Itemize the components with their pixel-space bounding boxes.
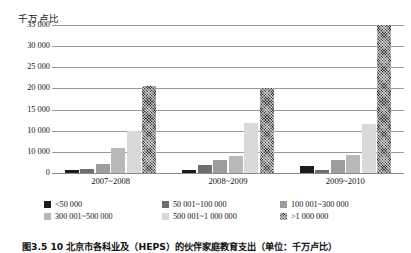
bar bbox=[80, 169, 94, 173]
bar bbox=[65, 170, 79, 173]
y-axis-tick-label: 25 000 bbox=[4, 62, 50, 71]
bar bbox=[244, 123, 258, 173]
legend-item-label: 100 001~300 000 bbox=[291, 201, 349, 209]
legend-item[interactable]: >1 000 000 bbox=[280, 213, 398, 221]
bar bbox=[127, 131, 141, 173]
x-axis-category-label: 2008~2009 bbox=[173, 176, 283, 186]
bar-group bbox=[52, 25, 169, 173]
bar-group bbox=[287, 25, 404, 173]
y-axis-tick-label: 0 bbox=[4, 168, 50, 177]
legend-item-label: 50 001~100 000 bbox=[173, 201, 227, 209]
bar bbox=[229, 156, 243, 173]
bar bbox=[182, 170, 196, 173]
legend-item-label: 300 001~500 000 bbox=[55, 213, 113, 221]
y-axis-tick-label: 15 000 bbox=[4, 105, 50, 114]
y-axis-tick-label: 30 000 bbox=[4, 41, 50, 50]
bar bbox=[142, 86, 156, 173]
bar bbox=[300, 166, 314, 173]
legend-item-label: >1 000 000 bbox=[291, 213, 328, 221]
y-axis-tick-label: 35 000 bbox=[4, 20, 50, 29]
x-axis-category-label: 2007~2008 bbox=[56, 176, 166, 186]
y-axis: 35 00030 00025 00020 00015 00010 00010 0… bbox=[0, 25, 50, 173]
bar bbox=[111, 148, 125, 173]
legend-item[interactable]: 300 001~500 000 bbox=[44, 213, 162, 221]
legend-item-label: 500 001~1 000 000 bbox=[173, 213, 237, 221]
bar bbox=[346, 155, 360, 173]
plot-area bbox=[52, 25, 404, 173]
axis-baseline bbox=[52, 173, 404, 174]
legend-swatch-icon bbox=[44, 213, 51, 220]
bar bbox=[315, 170, 329, 173]
bar bbox=[331, 160, 345, 173]
legend-swatch-icon bbox=[162, 213, 169, 220]
y-axis-tick-label: 10 000 bbox=[4, 126, 50, 135]
legend-item-label: <50 000 bbox=[55, 201, 82, 209]
bar bbox=[377, 25, 391, 173]
bar bbox=[362, 124, 376, 173]
y-axis-tick-label: 10 000 bbox=[4, 147, 50, 156]
x-axis-category-label: 2009~2010 bbox=[290, 176, 400, 186]
legend-item[interactable]: 50 001~100 000 bbox=[162, 201, 280, 209]
bar bbox=[96, 164, 110, 173]
chart-legend: <50 00050 001~100 000100 001~300 000300 … bbox=[44, 199, 404, 223]
legend-swatch-icon bbox=[44, 201, 51, 208]
legend-swatch-icon bbox=[280, 201, 287, 208]
legend-swatch-icon bbox=[162, 201, 169, 208]
legend-item[interactable]: <50 000 bbox=[44, 201, 162, 209]
bar bbox=[198, 165, 212, 173]
figure-caption: 图3.5 10 北京市各科业及（HEPS）的伙伴家庭教育支出（单位：千万卢比） bbox=[22, 239, 411, 253]
legend-item[interactable]: 100 001~300 000 bbox=[280, 201, 398, 209]
legend-item[interactable]: 500 001~1 000 000 bbox=[162, 213, 280, 221]
y-axis-tick-label: 20 000 bbox=[4, 83, 50, 92]
bar bbox=[260, 88, 274, 173]
bar bbox=[213, 160, 227, 173]
bar-group bbox=[169, 25, 286, 173]
legend-swatch-icon bbox=[280, 213, 287, 220]
